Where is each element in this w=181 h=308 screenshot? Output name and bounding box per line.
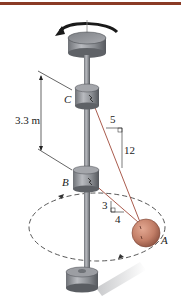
diagram-canvas: [0, 0, 181, 308]
label-slope-12: 12: [124, 145, 135, 156]
path-arrow-icon: [58, 194, 64, 199]
collar-B-top: [73, 166, 99, 174]
top-bar: [0, 2, 181, 5]
shaft-base: [78, 269, 86, 273]
shadow: [96, 262, 146, 296]
rotation-arrow-icon: [60, 24, 117, 32]
label-slope-3: 3: [102, 200, 108, 211]
collar-B-bottom: [73, 186, 99, 193]
label-slope-4: 4: [115, 214, 121, 225]
path-arrow-icon: [118, 254, 124, 259]
label-distance: 3.3 m: [15, 115, 40, 126]
slope-triangle-upper: [106, 128, 122, 168]
bottom-disc-bottom: [66, 284, 98, 293]
dimension-extension-bottom: [38, 149, 72, 170]
rotating-shaft-diagram: C B A 3.3 m 5 12 3 4: [0, 0, 181, 308]
slope-triangle-lower: [111, 201, 124, 212]
collar-C-bottom: [75, 103, 99, 110]
dimension-extension-top: [38, 71, 72, 90]
cord-AC: [92, 100, 140, 222]
label-collar-C: C: [64, 94, 71, 105]
label-ball-A: A: [161, 235, 168, 246]
ball-A: [132, 219, 160, 247]
dimension-arrow-up-icon: [39, 75, 43, 80]
collar-C-top: [75, 84, 99, 92]
label-slope-5: 5: [110, 114, 116, 125]
label-collar-B: B: [62, 177, 69, 188]
right-angle-mark: [111, 208, 115, 212]
top-disc-top: [68, 32, 106, 44]
right-angle-mark: [118, 128, 122, 132]
